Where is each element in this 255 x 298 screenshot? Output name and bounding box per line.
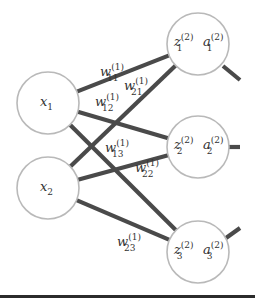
weight-label-w22: w(1)22	[135, 158, 159, 179]
input-node-x1: x1	[17, 72, 79, 134]
neural-network-diagram: x1x2z(2)1a(2)1z(2)2a(2)2z(2)3a(2)3 w(1)1…	[0, 0, 255, 298]
input-node-x2: x2	[17, 157, 79, 219]
hidden-node-h3: z(2)3a(2)3	[167, 221, 229, 283]
weight-label-w23: w(1)23	[117, 232, 141, 253]
output-edge-h1	[223, 66, 240, 80]
weight-label-w13: w(1)13	[105, 138, 129, 159]
hidden-node-h1: z(2)1a(2)1	[167, 13, 229, 75]
weight-label-w12: w(1)12	[95, 92, 119, 113]
hidden-node-h2: z(2)2a(2)2	[167, 116, 229, 178]
output-edge-h3	[226, 228, 240, 238]
